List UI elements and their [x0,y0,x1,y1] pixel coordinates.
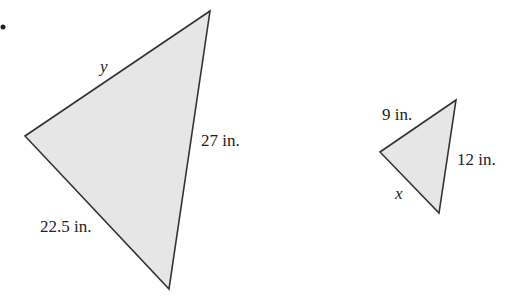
small-side-12-label: 12 in. [457,151,496,168]
large-side-27-label: 27 in. [201,132,240,149]
small-side-9-label: 9 in. [382,106,412,123]
similar-triangles-diagram [0,0,530,307]
large-triangle [25,11,210,289]
small-side-x-label: x [395,185,403,202]
bullet-dot [1,25,6,30]
large-side-y-label: y [100,58,108,75]
large-side-22-5-label: 22.5 in. [40,218,91,235]
